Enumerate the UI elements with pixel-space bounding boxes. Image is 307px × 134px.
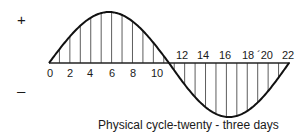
sine-curve [49,12,289,117]
tick-label: 10 [151,67,163,79]
tick-label: 18 [242,49,254,61]
tick-label: 22 [282,49,294,61]
tick-label: 4 [87,67,93,79]
tick-label: ´20 [257,49,273,61]
tick-label: 0 [47,67,53,79]
tick-label: 12 [176,49,188,61]
chart-caption: Physical cycle-twenty - three days [98,118,279,132]
tick-label: 8 [130,67,136,79]
tick-label: 2 [67,67,73,79]
tick-label: 16 [219,49,231,61]
tick-label: 14 [197,49,209,61]
tick-label: 6 [109,67,115,79]
